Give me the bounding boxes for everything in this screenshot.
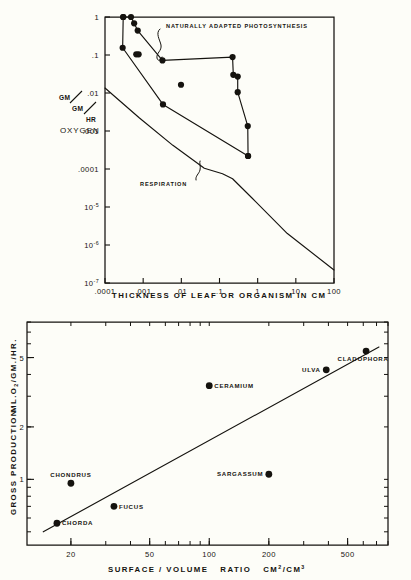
top-chart-x-axis-label: THICKNESS OF LEAF OR ORGANISM IN CM — [112, 291, 327, 300]
top-series-line-photosynthesis-envelope — [123, 17, 248, 156]
bottom-data-point-cladophora — [363, 348, 370, 355]
bottom-point-label-chorda: CHORDA — [62, 519, 93, 526]
top-data-point — [128, 14, 134, 20]
top-y-tick-label: .0001 — [78, 165, 99, 174]
top-data-point — [159, 57, 165, 63]
top-chart-series — [105, 14, 334, 270]
top-chart-tick-labels: .0001.001.01.11101001.1.01.001.000110-51… — [78, 13, 341, 296]
bottom-x-tick-label: 20 — [66, 550, 75, 559]
svg-text:THICKNESS OF LEAF OR ORGANISM: THICKNESS OF LEAF OR ORGANISM IN CM — [112, 291, 327, 300]
top-data-point — [245, 123, 251, 129]
bottom-data-point-chondrus — [68, 480, 75, 487]
top-data-point — [178, 82, 184, 88]
bottom-data-point-ceramium — [206, 382, 213, 389]
bottom-chart: CHORDACHONDRUSFUCUSCERAMIUMSARGASSUMULVA… — [0, 300, 411, 580]
top-chart-y-axis-label: OXYGEN — [60, 126, 100, 135]
bottom-data-point-sargassum — [265, 471, 272, 478]
annotation-naturally-adapted-photosynthesis: NATURALLY ADAPTED PHOTOSYNTHESIS — [166, 23, 308, 29]
top-y-tick-label: .01 — [87, 89, 99, 98]
top-data-point — [136, 51, 142, 57]
top-y-tick-label: 10-5 — [84, 202, 99, 212]
top-series-line-respiration — [105, 88, 334, 270]
bottom-point-label-chondrus: CHONDRUS — [50, 471, 91, 478]
bottom-chart-fit-line — [43, 347, 379, 532]
bottom-y-tick-label: 5 — [19, 354, 24, 363]
bottom-point-label-cladophora: CLADOPHORA — [338, 355, 389, 362]
bottom-y-tick-label: 1 — [19, 475, 24, 484]
bottom-x-tick-label: 500 — [341, 550, 355, 559]
svg-text:ML.O2/GM./HR.: ML.O2/GM./HR. — [9, 338, 19, 412]
svg-text:SURFACE / VOLUMERATIOCM2/CM3: SURFACE / VOLUMERATIOCM2/CM3 — [108, 564, 306, 574]
y-unit-hr: HR — [86, 116, 96, 123]
top-y-tick-label: .1 — [92, 51, 99, 60]
bottom-point-label-fucus: FUCUS — [119, 503, 144, 510]
top-data-point — [135, 27, 141, 33]
top-data-point — [235, 74, 241, 80]
y-unit-gm-numerator: GM — [59, 94, 70, 101]
top-data-point — [131, 20, 137, 26]
bottom-x-tick-label: 50 — [145, 550, 154, 559]
bottom-point-label-sargassum: SARGASSUM — [217, 470, 263, 477]
bottom-y-tick-label: 2 — [19, 423, 24, 432]
bottom-point-label-ceramium: CERAMIUM — [214, 382, 254, 389]
top-chart: .0001.001.01.11101001.1.01.001.000110-51… — [0, 0, 411, 300]
top-y-tick-label: 1 — [94, 13, 99, 22]
bottom-x-tick-label: 200 — [262, 550, 276, 559]
bottom-data-point-fucus — [111, 503, 118, 510]
top-data-point — [235, 89, 241, 95]
top-y-tick-label: 10-6 — [84, 240, 99, 250]
bottom-data-point-chorda — [54, 520, 61, 527]
top-data-point — [229, 54, 235, 60]
figure-container: .0001.001.01.11101001.1.01.001.000110-51… — [0, 0, 411, 580]
top-series-line-photosynthesis-lower-envelope — [123, 17, 248, 156]
top-data-point — [160, 101, 166, 107]
bottom-chart-y-axis-unit: ML.O2/GM./HR. — [9, 338, 19, 412]
top-data-point — [245, 153, 251, 159]
top-x-tick-label: 100 — [327, 287, 341, 296]
bottom-regression-line — [43, 347, 379, 532]
top-data-point — [120, 14, 126, 20]
y-unit-gm-denominator: GM — [72, 105, 83, 112]
bottom-x-tick-label: 100 — [202, 550, 216, 559]
annotation-respiration: RESPIRATION — [140, 181, 187, 187]
bottom-chart-x-axis-label: SURFACE / VOLUMERATIOCM2/CM3 — [108, 564, 306, 574]
bottom-chart-tick-labels: 2050100200500125 — [19, 354, 354, 559]
svg-text:GROSS PRODUCTION: GROSS PRODUCTION — [9, 409, 18, 515]
top-data-point — [120, 45, 126, 51]
photosynthesis-annotation-leader — [157, 29, 162, 60]
bottom-data-point-ulva — [323, 366, 330, 373]
bottom-point-label-ulva: ULVA — [302, 366, 321, 373]
bottom-chart-y-axis-label: GROSS PRODUCTION — [9, 409, 18, 515]
